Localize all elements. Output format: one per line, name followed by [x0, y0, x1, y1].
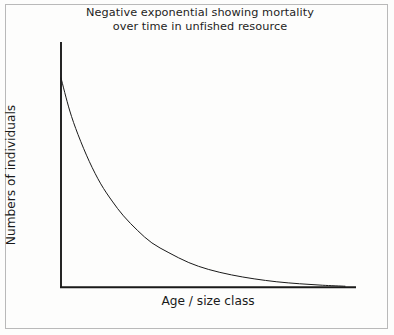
figure-container: Negative exponential showing mortality o…	[0, 0, 394, 335]
y-axis-label: Numbers of individuals	[0, 95, 22, 255]
x-axis-label: Age / size class	[60, 294, 356, 308]
data-series-decay-curve	[61, 78, 345, 286]
plot-area	[0, 0, 394, 335]
